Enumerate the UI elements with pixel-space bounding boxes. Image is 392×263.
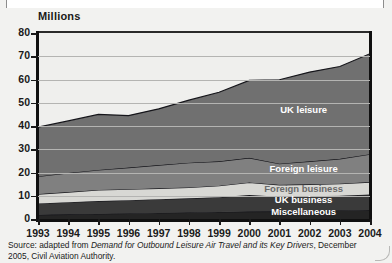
x-tick-label-1998: 1998 bbox=[172, 227, 206, 239]
x-tick-mark-2001 bbox=[279, 219, 281, 225]
series-label-miscellaneous: Miscellaneous bbox=[271, 206, 336, 217]
x-tick-mark-1998 bbox=[189, 219, 191, 225]
y-tick-label-0: 0 bbox=[0, 212, 30, 224]
x-tick-label-1999: 1999 bbox=[202, 227, 236, 239]
gridline-30 bbox=[38, 149, 370, 150]
x-tick-mark-1996 bbox=[129, 219, 131, 225]
x-tick-mark-1997 bbox=[159, 219, 161, 225]
series-label-foreign-leisure: Foreign leisure bbox=[270, 163, 338, 174]
y-tick-label-10: 10 bbox=[0, 189, 30, 201]
y-tick-mark-30 bbox=[31, 149, 37, 151]
x-tick-mark-2000 bbox=[249, 219, 251, 225]
y-tick-mark-60 bbox=[31, 80, 37, 82]
x-tick-label-1996: 1996 bbox=[112, 227, 146, 239]
y-tick-mark-0 bbox=[31, 219, 37, 221]
y-tick-mark-40 bbox=[31, 126, 37, 128]
plot-top-border bbox=[36, 31, 372, 33]
y-tick-label-30: 30 bbox=[0, 142, 30, 154]
x-tick-mark-2003 bbox=[340, 219, 342, 225]
chart-page: Millions 01020304050607080 1993199419951… bbox=[0, 0, 392, 263]
y-tick-mark-70 bbox=[31, 56, 37, 58]
x-tick-mark-2002 bbox=[310, 219, 312, 225]
y-tick-label-80: 80 bbox=[0, 26, 30, 38]
y-axis-unit-label: Millions bbox=[38, 10, 81, 22]
source-note: Source: adapted from Demand for Outbound… bbox=[8, 240, 368, 261]
series-label-uk-leisure: UK leisure bbox=[280, 104, 327, 115]
x-tick-mark-1999 bbox=[219, 219, 221, 225]
series-label-uk-business: UK business bbox=[275, 194, 333, 205]
area-uk-leisure bbox=[38, 54, 370, 177]
source-prefix: Source: adapted from bbox=[8, 240, 91, 250]
y-tick-label-20: 20 bbox=[0, 166, 30, 178]
series-label-foreign-business: Foreign business bbox=[264, 183, 343, 194]
gridline-40 bbox=[38, 126, 370, 127]
x-tick-label-2000: 2000 bbox=[232, 227, 266, 239]
x-tick-mark-1994 bbox=[68, 219, 70, 225]
y-tick-mark-20 bbox=[31, 173, 37, 175]
x-tick-label-2002: 2002 bbox=[293, 227, 327, 239]
y-tick-mark-50 bbox=[31, 103, 37, 105]
y-tick-label-70: 70 bbox=[0, 49, 30, 61]
x-tick-label-2001: 2001 bbox=[262, 227, 296, 239]
x-tick-label-2003: 2003 bbox=[323, 227, 357, 239]
x-tick-label-2004: 2004 bbox=[353, 227, 387, 239]
x-tick-mark-2004 bbox=[370, 219, 372, 225]
x-tick-label-1995: 1995 bbox=[81, 227, 115, 239]
gridline-70 bbox=[38, 56, 370, 57]
x-tick-mark-1993 bbox=[38, 219, 40, 225]
x-tick-label-1994: 1994 bbox=[51, 227, 85, 239]
x-axis-line bbox=[36, 219, 372, 222]
gridline-60 bbox=[38, 80, 370, 81]
y-tick-mark-10 bbox=[31, 196, 37, 198]
y-tick-label-60: 60 bbox=[0, 73, 30, 85]
y-tick-mark-80 bbox=[31, 33, 37, 35]
x-tick-mark-1995 bbox=[98, 219, 100, 225]
x-tick-label-1993: 1993 bbox=[21, 227, 55, 239]
y-tick-label-40: 40 bbox=[0, 119, 30, 131]
y-tick-label-50: 50 bbox=[0, 96, 30, 108]
source-title: Demand for Outbound Leisure Air Travel a… bbox=[91, 240, 314, 250]
x-tick-label-1997: 1997 bbox=[142, 227, 176, 239]
